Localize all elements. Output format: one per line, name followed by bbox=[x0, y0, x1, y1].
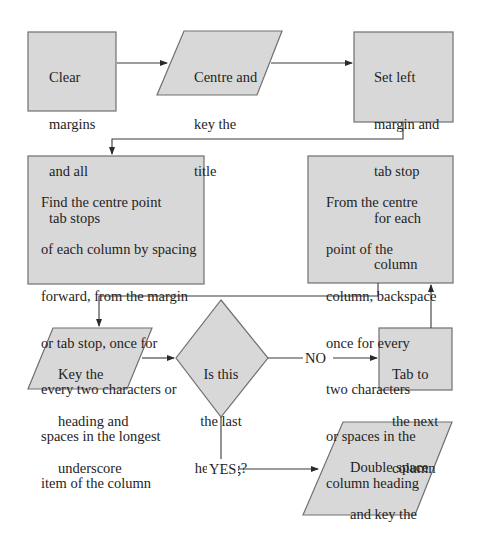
node-text-line: the next bbox=[392, 414, 438, 430]
node-text-line: Is this bbox=[190, 367, 252, 383]
node-text-line: Tab to bbox=[392, 367, 438, 383]
node-centre-title: Centre and key the title bbox=[194, 39, 257, 195]
node-text-line: Set left bbox=[374, 70, 439, 86]
node-text-line: key the bbox=[194, 117, 257, 133]
node-text-line: point of the bbox=[326, 242, 436, 258]
node-text-line: of each column by spacing bbox=[41, 242, 196, 258]
node-text-line: underscore bbox=[58, 461, 128, 477]
node-text-line: heading and bbox=[58, 414, 128, 430]
edge-set-to-find bbox=[112, 122, 403, 154]
node-text-line: Double space bbox=[350, 460, 429, 476]
node-key-heading: Key the heading and underscore bbox=[58, 336, 128, 492]
node-text-line: Clear bbox=[49, 70, 100, 86]
node-text-line: margins bbox=[49, 117, 100, 133]
node-text-line: and key the bbox=[350, 507, 429, 523]
node-text-line: the last bbox=[190, 414, 252, 430]
node-text-line: Key the bbox=[58, 367, 128, 383]
node-text-line: Centre and bbox=[194, 70, 257, 86]
edge-label-no: NO bbox=[303, 350, 328, 366]
node-text-line: column, backspace bbox=[326, 289, 436, 305]
node-text-line: From the centre bbox=[326, 195, 436, 211]
node-text-line: title bbox=[194, 164, 257, 180]
node-double-space: Double space and key the body of the tab… bbox=[350, 429, 429, 542]
node-text-line: margin and bbox=[374, 117, 439, 133]
edge-label-yes: YES bbox=[207, 461, 238, 477]
node-text-line: Find the centre point bbox=[41, 195, 196, 211]
node-text-line: forward, from the margin bbox=[41, 289, 196, 305]
